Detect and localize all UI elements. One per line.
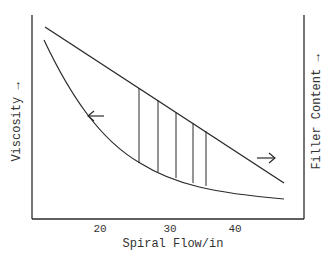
- hatched-region: [139, 88, 206, 186]
- x-tick-30: 30: [163, 223, 176, 235]
- x-axis-label: Spiral Flow/in: [123, 237, 224, 251]
- x-tick-40: 40: [228, 223, 241, 235]
- x-tick-20: 20: [93, 223, 106, 235]
- left-arrow-icon: [88, 111, 104, 121]
- right-arrow-icon: [257, 153, 275, 163]
- chart: 20 30 40 Spiral Flow/in Viscosity → Fill…: [0, 0, 336, 258]
- viscosity-curve: [44, 40, 284, 199]
- y-axis-label-right: Filler Content →: [310, 54, 324, 170]
- y-axis-label-left: Viscosity →: [10, 82, 24, 162]
